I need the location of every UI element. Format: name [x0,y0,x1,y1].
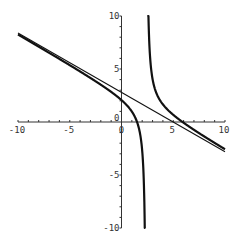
x-tick-label: -5 [63,125,74,135]
y-tick-label: 10 [109,11,120,21]
y-tick-label: 5 [114,64,119,74]
y-tick-label: -5 [109,170,120,180]
x-tick-label: 10 [219,125,230,135]
x-tick-label: 5 [170,125,175,135]
chart: -10-50510-10-50510 [0,0,241,246]
rational-curve-left-branch [18,34,145,228]
x-tick-label: 0 [119,125,124,135]
y-tick-label: 0 [114,113,119,123]
axes: -10-50510-10-50510 [9,11,230,233]
y-tick-label: -10 [103,223,119,233]
x-tick-label: -10 [9,125,25,135]
